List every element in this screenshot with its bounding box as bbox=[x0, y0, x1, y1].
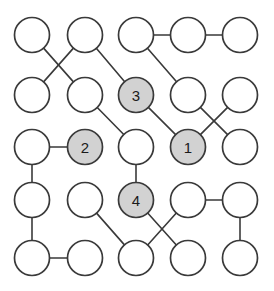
graph-node-circle[interactable] bbox=[223, 183, 258, 218]
graph-node[interactable] bbox=[15, 130, 50, 165]
graph-node-circle[interactable] bbox=[223, 78, 258, 113]
graph-node[interactable] bbox=[171, 241, 206, 276]
graph-node[interactable] bbox=[171, 78, 206, 113]
graph-node[interactable] bbox=[119, 130, 154, 165]
graph-node[interactable] bbox=[15, 78, 50, 113]
graph-node[interactable] bbox=[223, 130, 258, 165]
graph-node[interactable] bbox=[223, 241, 258, 276]
graph-node-marked[interactable]: 4 bbox=[119, 183, 154, 218]
graph-edge bbox=[97, 107, 124, 134]
graph-node[interactable] bbox=[68, 18, 103, 53]
graph-node-circle[interactable] bbox=[171, 18, 206, 53]
graph-node[interactable] bbox=[15, 183, 50, 218]
graph-node-marked[interactable]: 1 bbox=[171, 130, 206, 165]
graph-node-circle[interactable] bbox=[15, 18, 50, 53]
graph-node[interactable] bbox=[68, 183, 103, 218]
graph-node-circle[interactable] bbox=[15, 130, 50, 165]
graph-node-circle[interactable] bbox=[68, 18, 103, 53]
graph-node[interactable] bbox=[68, 241, 103, 276]
graph-edge bbox=[97, 213, 125, 245]
graph-node-circle[interactable] bbox=[223, 241, 258, 276]
graph-node-circle[interactable] bbox=[171, 241, 206, 276]
graph-node-circle[interactable] bbox=[171, 130, 206, 165]
graph-canvas: 3214 bbox=[0, 0, 274, 291]
graph-node[interactable] bbox=[171, 18, 206, 53]
graph-node[interactable] bbox=[119, 18, 154, 53]
graph-node-circle[interactable] bbox=[119, 78, 154, 113]
graph-node-circle[interactable] bbox=[68, 130, 103, 165]
graph-node[interactable] bbox=[68, 78, 103, 113]
node-graph-diagram: 3214 bbox=[0, 0, 274, 291]
graph-node[interactable] bbox=[15, 241, 50, 276]
graph-node-circle[interactable] bbox=[119, 18, 154, 53]
graph-node-marked[interactable]: 2 bbox=[68, 130, 103, 165]
graph-node-circle[interactable] bbox=[119, 183, 154, 218]
graph-node-circle[interactable] bbox=[171, 78, 206, 113]
graph-node-circle[interactable] bbox=[223, 130, 258, 165]
graph-node-circle[interactable] bbox=[15, 183, 50, 218]
graph-node-circle[interactable] bbox=[223, 18, 258, 53]
graph-node-circle[interactable] bbox=[68, 241, 103, 276]
graph-node-circle[interactable] bbox=[68, 183, 103, 218]
graph-node-circle[interactable] bbox=[171, 183, 206, 218]
graph-node-circle[interactable] bbox=[119, 241, 154, 276]
graph-node-circle[interactable] bbox=[119, 130, 154, 165]
graph-node[interactable] bbox=[171, 183, 206, 218]
graph-node[interactable] bbox=[223, 183, 258, 218]
graph-node-circle[interactable] bbox=[68, 78, 103, 113]
graph-node[interactable] bbox=[223, 78, 258, 113]
graph-node[interactable] bbox=[15, 18, 50, 53]
graph-edge bbox=[148, 107, 175, 134]
graph-node-circle[interactable] bbox=[15, 241, 50, 276]
graph-edge bbox=[96, 48, 124, 81]
graph-node[interactable] bbox=[223, 18, 258, 53]
graph-node[interactable] bbox=[119, 241, 154, 276]
graph-node-circle[interactable] bbox=[15, 78, 50, 113]
graph-node-marked[interactable]: 3 bbox=[119, 78, 154, 113]
graph-edge bbox=[147, 48, 176, 82]
